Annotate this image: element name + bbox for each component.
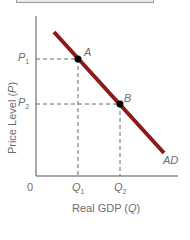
x-axis-title: Real GDP (Q) [72,203,140,214]
point-b-marker [117,101,124,108]
q1-tick-label: Q1 [72,182,84,195]
point-a-marker [75,56,82,63]
y-axis-title-prefix: Price Level ( [6,93,18,154]
q2-tick-label: Q2 [114,182,126,195]
p2-sub: 2 [25,103,29,110]
p1-tick-label: P1 [18,52,29,65]
y-axis-title-suffix: ) [6,82,18,86]
y-axis-title: Price Level (P) [6,82,18,154]
point-a-label: A [84,47,91,58]
q1-sub: 1 [81,188,85,195]
ad-curve-label: AD [163,155,178,166]
y-axis-title-var: P [6,86,18,93]
q2-main: Q [114,181,123,193]
q2-sub: 2 [123,188,127,195]
x-axis-title-prefix: Real GDP ( [72,202,128,214]
x-axis-title-var: Q [128,202,137,214]
p2-tick-label: P2 [18,97,29,110]
x-axis-title-suffix: ) [137,202,141,214]
q1-main: Q [72,181,81,193]
point-b-label: B [124,93,131,104]
p1-sub: 1 [25,58,29,65]
origin-label: 0 [27,182,33,193]
ad-curve [54,32,164,153]
